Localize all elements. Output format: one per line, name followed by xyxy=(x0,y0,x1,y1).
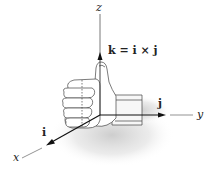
y-axis-label: y xyxy=(197,109,203,120)
diagram-graphic xyxy=(0,0,215,185)
k-vector-label: k = i × j xyxy=(108,45,158,56)
i-vector-label: i xyxy=(42,127,46,138)
hand-illustration xyxy=(63,62,143,128)
j-vector-label: j xyxy=(158,98,162,109)
right-hand-rule-diagram: z y x k = i × j j i xyxy=(0,0,215,185)
x-axis-label: x xyxy=(13,152,19,163)
k-vector-arrowhead xyxy=(98,52,103,60)
z-axis-label: z xyxy=(96,2,102,13)
